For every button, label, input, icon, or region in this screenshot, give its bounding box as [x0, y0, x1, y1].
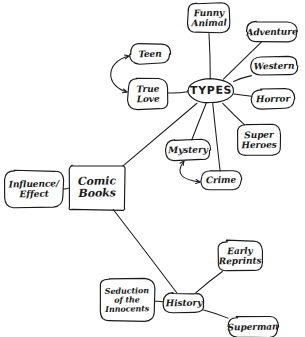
node-shape-influence[interactable]	[5, 170, 64, 207]
node-shape-comic_books[interactable]	[69, 165, 125, 210]
node-shape-mystery[interactable]	[166, 139, 211, 160]
edge-e_types_crime	[213, 103, 220, 171]
node-shape-horror[interactable]	[251, 89, 295, 110]
node-shape-super_heroes[interactable]	[238, 124, 281, 155]
edge-e_comic_types	[123, 103, 197, 166]
edge-e_types_truelove	[168, 92, 188, 93]
edge-layer	[63, 33, 261, 318]
node-shape-early_reprints[interactable]	[218, 240, 262, 271]
node-shape-layer	[5, 3, 298, 337]
edge-e_influence_comic	[63, 188, 68, 189]
node-shape-western[interactable]	[251, 56, 298, 75]
edge-e_types_western	[234, 76, 252, 82]
node-shape-types[interactable]	[188, 79, 234, 103]
edge-e_history_superman	[204, 310, 228, 318]
sketch-layer	[0, 0, 305, 337]
edge-e_comic_history	[113, 210, 177, 293]
edge-e_types_mystery	[192, 103, 207, 140]
node-shape-history[interactable]	[163, 293, 204, 313]
node-shape-teen[interactable]	[130, 44, 171, 65]
node-shape-superman[interactable]	[228, 317, 279, 337]
edge-e_history_early	[196, 271, 222, 292]
node-shape-funny_animal[interactable]	[188, 3, 230, 33]
edge-e_types_super	[223, 103, 245, 125]
node-shape-true_love[interactable]	[128, 78, 168, 109]
node-shape-adventure[interactable]	[246, 21, 297, 42]
edge-e_types_horror	[234, 94, 252, 96]
node-shape-crime[interactable]	[201, 171, 242, 190]
node-shape-seduction[interactable]	[100, 278, 155, 321]
edge-e_types_funny	[209, 33, 210, 78]
edge-e_teen_truelove	[111, 56, 129, 92]
mind-map-canvas: ComicBooksInfluence/EffectTYPESFunnyAnim…	[0, 0, 305, 337]
